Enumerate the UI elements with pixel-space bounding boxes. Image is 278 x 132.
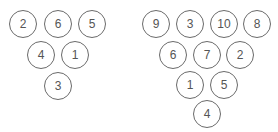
right-triangle-diagram: 9 3 10 8 6 7 2 1 5 4 [0,0,278,132]
circle-node: 10 [210,10,238,38]
circle-node: 8 [243,10,271,38]
circle-node: 3 [176,10,204,38]
circle-node: 5 [210,71,238,99]
circle-node: 6 [159,41,187,69]
circle-node: 4 [193,100,221,128]
circle-node: 1 [176,71,204,99]
circle-node: 7 [193,41,221,69]
circle-node: 2 [226,41,254,69]
circle-node: 9 [142,10,170,38]
